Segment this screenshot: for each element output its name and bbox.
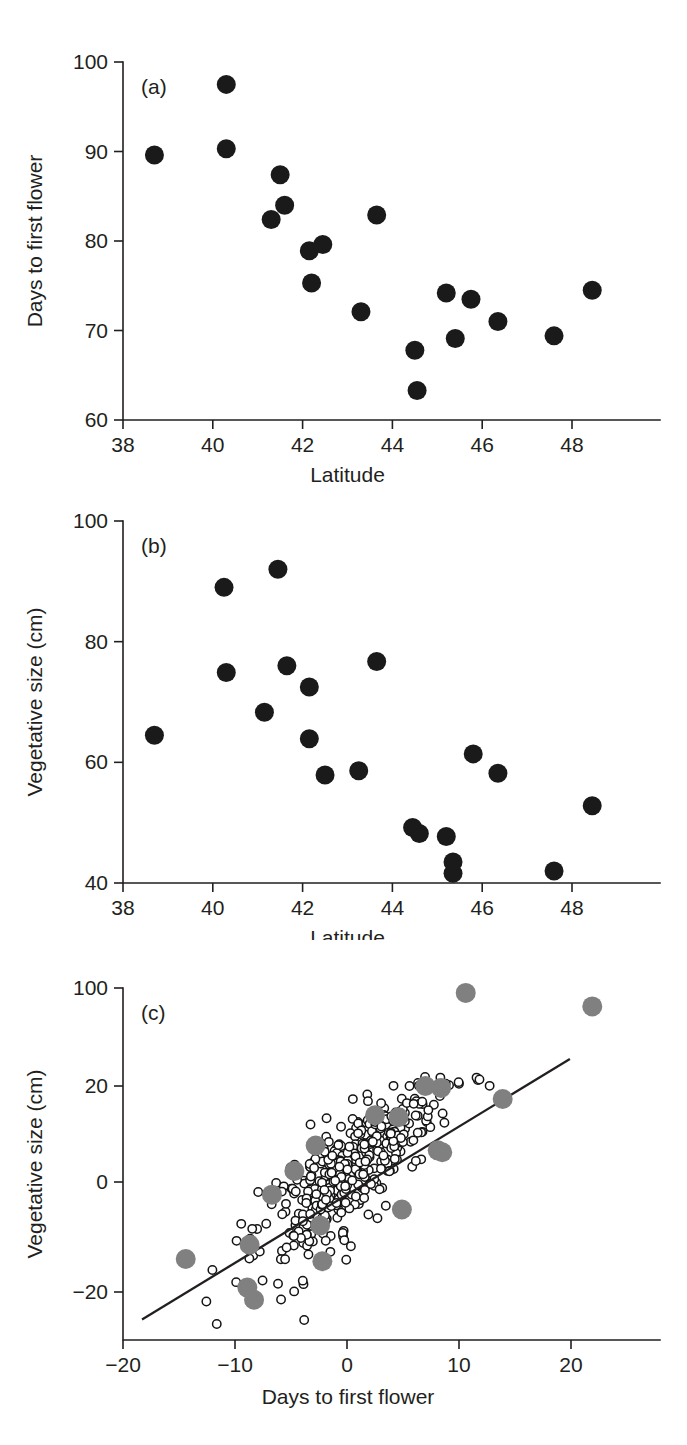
data-point-open [345,1143,353,1151]
data-point-open [364,1097,372,1105]
panel-b-ytick-label: 40 [85,871,108,894]
data-point [464,744,483,763]
data-point [277,656,296,675]
data-point [145,726,164,745]
data-point-open [485,1082,493,1090]
data-point-open [360,1140,368,1148]
data-point-open [302,1199,310,1207]
data-point-open [328,1151,336,1159]
panel-a-xtick-label: 42 [291,433,314,456]
data-point-open [360,1194,368,1202]
data-point-open [424,1106,432,1114]
data-point [217,139,236,158]
panel-b-ytick-label: 100 [73,509,108,532]
data-point-open [307,1172,315,1180]
panel-b-xtick-label: 48 [560,896,583,919]
data-point [488,312,507,331]
data-point-open [382,1202,390,1210]
data-point-open [282,1200,290,1208]
panel-b-xaxis-title: Latitude [310,926,385,940]
data-point-open [325,1138,333,1146]
data-point [545,326,564,345]
data-point-open [282,1243,290,1251]
data-point-open [440,1119,448,1127]
data-point-gray [493,1089,513,1109]
data-point-gray [284,1161,304,1181]
data-point-gray [432,1142,452,1162]
data-point [446,329,465,348]
data-point-open [342,1256,350,1264]
data-point-open [274,1280,282,1288]
data-point [408,381,427,400]
data-point-open [300,1316,308,1324]
data-point [300,729,319,748]
panel-a-scatter: 60708090100384042444648LatitudeDays to f… [0,0,687,490]
data-point [215,578,234,597]
panel-c-xtick-label: −20 [105,1353,141,1376]
data-point-open [278,1210,286,1218]
data-point-open [343,1165,351,1173]
panel-a-ytick-label: 90 [85,140,108,163]
panel-c-yaxis-title: Vegetative size (cm) [23,1069,46,1258]
panel-c-label: (c) [141,1001,166,1024]
data-point [405,341,424,360]
data-point-open [337,1123,345,1131]
data-point-open [364,1210,372,1218]
panel-b-xtick-label: 46 [471,896,494,919]
data-point-open [348,1176,356,1184]
panel-b-scatter: 406080100384042444648LatitudeVegetative … [0,490,687,940]
data-point-open [335,1163,343,1171]
data-point-open [349,1095,357,1103]
data-point-gray [456,983,476,1003]
data-point-gray [389,1107,409,1127]
data-point-open [347,1242,355,1250]
data-point-open [312,1190,320,1198]
data-point [367,206,386,225]
panel-c-ytick-label: 20 [85,1074,108,1097]
data-point-open [341,1182,349,1190]
panel-b-xtick-label: 42 [291,896,314,919]
data-point-open [254,1188,262,1196]
data-point [316,766,335,785]
data-point [367,652,386,671]
data-point-open [412,1157,420,1165]
data-point-open [208,1266,216,1274]
data-point-open [322,1237,330,1245]
data-point-open [262,1220,270,1228]
data-point [271,165,290,184]
panel-a-xtick-label: 38 [111,433,134,456]
panel-a-label: (a) [141,75,167,98]
panel-a-ytick-label: 80 [85,229,108,252]
figure-container: 60708090100384042444648LatitudeDays to f… [0,0,687,1445]
data-point-open [290,1232,298,1240]
panel-b-xtick-label: 40 [201,896,224,919]
data-point-open [379,1151,387,1159]
data-point-open [281,1255,289,1263]
data-point-open [405,1082,413,1090]
data-point-open [331,1177,339,1185]
data-point-gray [431,1078,451,1098]
data-point-gray [310,1215,330,1235]
panel-b-axes [123,521,660,883]
data-point-open [418,1097,426,1105]
data-point-open [373,1214,381,1222]
data-point-open [438,1109,446,1117]
data-point-open [361,1157,369,1165]
data-point-open [475,1075,483,1083]
panel-a-xtick-label: 46 [471,433,494,456]
panel-b-ytick-label: 80 [85,630,108,653]
panel-c-ytick-label: 100 [73,976,108,999]
data-point [437,827,456,846]
data-point-gray [306,1136,326,1156]
data-point-open [299,1276,307,1284]
data-point-gray [244,1290,264,1310]
data-point-open [277,1295,285,1303]
data-point-open [232,1237,240,1245]
data-point [410,824,429,843]
data-point-open [454,1078,462,1086]
data-point-open [411,1111,419,1119]
data-point-open [310,1164,318,1172]
data-point [217,75,236,94]
data-point-open [391,1155,399,1163]
panel-a-xtick-label: 44 [381,433,405,456]
